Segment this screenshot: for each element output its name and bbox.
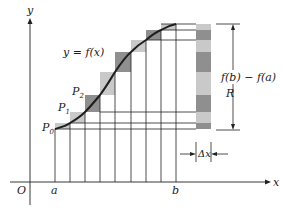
x-axis-arrow-icon xyxy=(265,180,271,185)
a-label: a xyxy=(51,184,58,197)
rise-label-text: f(b) − f(a) xyxy=(220,71,276,84)
curve-label: y = f(x) xyxy=(62,46,104,59)
region-label: R xyxy=(225,87,234,100)
delta-x-arrow-right-icon xyxy=(190,152,196,156)
p0-label: P0 xyxy=(41,121,54,136)
b-label: b xyxy=(172,184,179,197)
x-axis-label: x xyxy=(273,176,280,189)
rise-arrow-up-icon xyxy=(231,24,235,30)
y-axis-label: y xyxy=(26,4,34,17)
p2-label: P2 xyxy=(71,85,84,100)
origin-label: O xyxy=(17,184,26,197)
stacked-column-R xyxy=(196,24,211,129)
delta-x-label: Δx xyxy=(197,148,211,159)
delta-x-arrow-left-icon xyxy=(211,152,217,156)
y-axis-arrow-icon xyxy=(28,18,33,24)
rise-arrow-down-icon xyxy=(231,124,235,130)
p1-label: P1 xyxy=(57,101,70,116)
diagram-canvas: y x O a b y = f(x) P0 P1 P2 . f(b) − f(a… xyxy=(0,0,287,209)
